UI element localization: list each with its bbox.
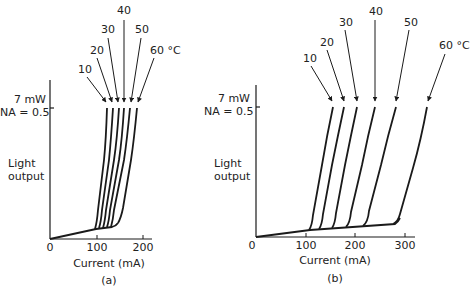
panel-b-ref-na: NA = 0.5 (204, 106, 250, 118)
panel-b-xtick-label-0: 0 (242, 240, 262, 252)
panel-b-xtick-label-200: 200 (342, 240, 368, 252)
panel-a-ylabel-line2: output (8, 171, 44, 183)
panel-b-temp-40: 40 (369, 6, 383, 18)
panel-b-temp-50: 50 (404, 17, 418, 29)
panel-b-xtick-label-100: 100 (293, 240, 319, 252)
panel-b-curve-30 (332, 107, 357, 228)
panel-a-arrow-30 (108, 38, 118, 102)
panel-b-curve-10 (309, 107, 333, 230)
panel-b-caption: (b) (325, 273, 345, 285)
panel-a-temp-60: 60 °C (150, 45, 181, 57)
panel-a-xtick-label-200: 200 (130, 242, 156, 254)
panel-b-ylabel-line1: Light (214, 158, 241, 170)
panel-b-arrow-30 (345, 30, 357, 101)
panel-a-xlabel: Current (mA) (64, 258, 154, 270)
panel-b-arrow-20 (327, 50, 344, 101)
panel-a-ref-power: 7 mW (4, 94, 46, 106)
panel-a-arrow-20 (97, 58, 112, 102)
panel-a-temp-40: 40 (117, 5, 131, 17)
panel-a-arrow-60 (138, 58, 154, 102)
panel-a-temp-10: 10 (78, 64, 92, 76)
panel-a-curve-40 (107, 108, 124, 227)
panel-a-xtick-label-100: 100 (84, 242, 110, 254)
panel-b-chart (256, 20, 445, 237)
panel-a-ylabel-line1: Light (8, 158, 35, 170)
panel-a-temp-50: 50 (135, 24, 149, 36)
panel-a-temp-30: 30 (101, 24, 115, 36)
panel-a-xtick-label-0: 0 (40, 242, 60, 254)
panel-a-arrow-50 (131, 38, 141, 102)
panel-b-curve-20 (319, 107, 344, 229)
panel-b-temp-60: 60 °C (439, 40, 470, 52)
panel-b-temp-30: 30 (339, 17, 353, 29)
panel-b-xlabel: Current (mA) (290, 255, 380, 267)
panel-a-curve-50 (111, 108, 130, 227)
panel-b-arrow-50 (396, 30, 409, 101)
panel-a-caption: (a) (99, 275, 119, 287)
panel-b-curve-40 (346, 107, 375, 227)
panel-a-arrow-10 (87, 77, 106, 102)
panel-b-temp-20: 20 (320, 37, 334, 49)
panel-b-curve-60 (393, 107, 427, 224)
panel-a-temp-20: 20 (90, 45, 104, 57)
panel-b-ylabel-line2: output (214, 171, 250, 183)
panel-b-curve-50 (363, 107, 396, 226)
panel-b-spontaneous-line (256, 218, 400, 237)
panel-a-ref-na: NA = 0.5 (0, 107, 46, 119)
panel-b-arrow-10 (311, 66, 332, 101)
panel-b-temp-10: 10 (303, 53, 317, 65)
panel-b-ref-power: 7 mW (208, 93, 250, 105)
panel-b-arrow-60 (428, 54, 445, 101)
panel-b-xtick-label-300: 300 (392, 240, 418, 252)
